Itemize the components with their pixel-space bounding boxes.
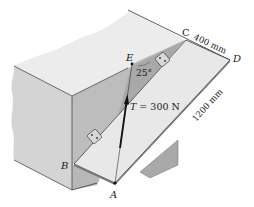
label-b: B (60, 160, 68, 171)
point-e (131, 63, 134, 66)
label-a: A (109, 189, 117, 200)
plate-hinge-diagram: E C D B A 25° T = 300 N 400 mm 1200 mm (0, 0, 254, 207)
point-a (113, 181, 116, 184)
label-c: C (182, 27, 190, 38)
label-e: E (125, 52, 134, 63)
label-tension: T = 300 N (130, 101, 180, 112)
label-angle: 25° (136, 68, 152, 78)
tension-value: = 300 N (136, 101, 179, 112)
label-d: D (232, 53, 241, 64)
